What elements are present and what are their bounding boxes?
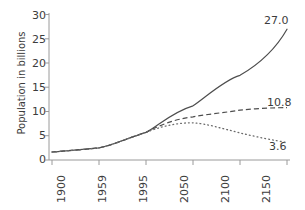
series-line-low-projection [52, 123, 287, 152]
population-projection-chart: Population in billions 30 25 20 15 10 5 … [0, 0, 305, 210]
series-line-high-projection [52, 29, 287, 152]
series-line-medium-projection [52, 108, 287, 152]
x-axis-ticks [52, 160, 287, 165]
plot-area [0, 0, 305, 210]
y-axis-ticks [45, 15, 49, 161]
axis-lines [49, 13, 290, 160]
